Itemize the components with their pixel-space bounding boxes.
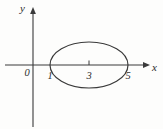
figure-canvas: y x 0 1 3 5 [0,0,163,129]
y-axis-label: y [20,3,25,14]
x-tick-label-3: 3 [84,71,94,82]
origin-label: 0 [22,68,32,79]
x-tick-label-1: 1 [45,71,55,82]
y-axis-arrow-icon [30,7,36,14]
x-tick-label-5: 5 [123,71,133,82]
x-axis-arrow-icon [143,62,150,68]
cartesian-plot [0,0,163,129]
x-axis-label: x [152,62,157,73]
